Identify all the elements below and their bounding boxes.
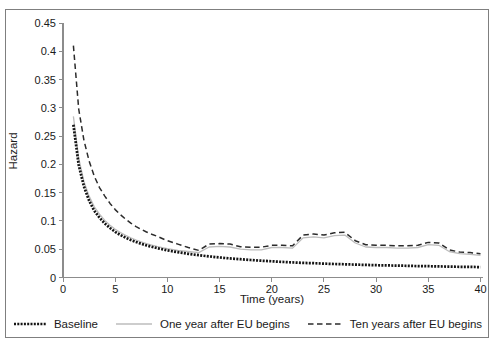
svg-text:0.45: 0.45: [35, 17, 56, 29]
x-axis-title: Time (years): [63, 293, 481, 305]
svg-text:0.3: 0.3: [41, 102, 56, 114]
legend-label-baseline: Baseline: [54, 318, 98, 330]
legend-label-ten-years: Ten years after EU begins: [350, 318, 482, 330]
legend-item-one-year: One year after EU begins: [114, 318, 290, 330]
baseline-line-icon: [12, 319, 48, 329]
svg-text:0.15: 0.15: [35, 187, 56, 199]
y-axis-title: Hazard: [7, 101, 21, 201]
hazard-figure: 00.050.10.150.20.250.30.350.40.450510152…: [0, 0, 501, 350]
one-year-line-icon: [114, 319, 154, 329]
svg-text:0.1: 0.1: [41, 215, 56, 227]
svg-text:0: 0: [50, 272, 56, 284]
legend: Baseline One year after EU begins Ten ye…: [8, 316, 486, 332]
legend-item-baseline: Baseline: [12, 318, 98, 330]
legend-item-ten-years: Ten years after EU begins: [306, 318, 482, 330]
legend-label-one-year: One year after EU begins: [160, 318, 290, 330]
svg-text:0.2: 0.2: [41, 158, 56, 170]
ten-years-line-icon: [306, 319, 344, 329]
svg-text:0.4: 0.4: [41, 45, 56, 57]
svg-text:0.25: 0.25: [35, 130, 56, 142]
svg-text:0.05: 0.05: [35, 243, 56, 255]
svg-text:0.35: 0.35: [35, 74, 56, 86]
